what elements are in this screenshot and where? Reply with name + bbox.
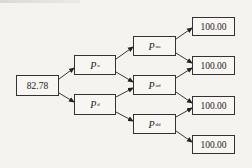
- node-pdd-symbol: P: [148, 119, 154, 130]
- leaf-3-value: 100.00: [200, 101, 226, 111]
- node-pu: Pu: [74, 55, 116, 75]
- node-pud-subscript: ud: [156, 83, 161, 88]
- node-puu-subscript: uu: [156, 44, 161, 49]
- leaf-4-value: 100.00: [200, 140, 226, 150]
- node-puu-symbol: P: [148, 41, 154, 52]
- leaf-1-value: 100.00: [200, 22, 226, 32]
- leaf-node-1: 100.00: [192, 17, 235, 36]
- root-node: 82.78: [16, 75, 59, 96]
- edge-pd-pdd: [116, 112, 133, 121]
- node-pu-symbol: P: [90, 60, 96, 71]
- node-pd-symbol: P: [90, 99, 96, 110]
- node-pd-subscript: d: [97, 102, 100, 107]
- leaf-node-4: 100.00: [192, 135, 235, 154]
- leaf-2-value: 100.00: [200, 61, 226, 71]
- edge-pud-leaf3: [176, 92, 192, 103]
- edge-pud-leaf2: [176, 68, 192, 78]
- node-pud-symbol: P: [148, 80, 154, 91]
- edge-root-pd: [59, 93, 74, 102]
- root-value: 82.78: [27, 81, 48, 91]
- edge-root-pu: [59, 68, 74, 79]
- leaf-node-2: 100.00: [192, 56, 235, 75]
- edge-pu-puu: [116, 47, 133, 59]
- node-pud: Pud: [133, 75, 176, 95]
- leaf-node-3: 100.00: [192, 96, 235, 115]
- node-puu: Puu: [133, 36, 176, 56]
- edge-pd-pud: [116, 88, 133, 97]
- node-pu-subscript: u: [97, 63, 100, 68]
- edge-puu-leaf1: [176, 28, 192, 39]
- node-pdd-subscript: dd: [156, 122, 161, 127]
- edge-puu-leaf2: [176, 53, 192, 63]
- node-pdd: Pdd: [133, 114, 176, 134]
- edge-pu-pud: [116, 72, 133, 82]
- edge-pdd-leaf3: [176, 108, 192, 117]
- edge-pdd-leaf4: [176, 131, 192, 142]
- node-pd: Pd: [74, 94, 116, 115]
